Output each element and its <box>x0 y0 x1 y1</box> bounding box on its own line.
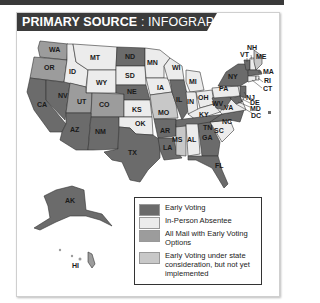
svg-text:KS: KS <box>132 106 142 113</box>
legend-label: Early Voting under state consideration, … <box>165 251 261 278</box>
state-AK[interactable] <box>34 186 112 230</box>
svg-text:NV: NV <box>58 92 68 99</box>
svg-text:WY: WY <box>96 79 108 86</box>
svg-text:HI: HI <box>72 262 79 269</box>
svg-text:LA: LA <box>163 144 172 151</box>
svg-text:GA: GA <box>202 134 213 141</box>
legend-swatch-all-mail <box>139 230 160 242</box>
legend-swatch-in-person-absentee <box>139 217 160 229</box>
svg-text:AL: AL <box>187 136 197 143</box>
legend: Early Voting In-Person Absentee All Mail… <box>134 197 262 285</box>
svg-text:SC: SC <box>214 127 224 134</box>
svg-text:WI: WI <box>172 64 181 71</box>
svg-text:MI: MI <box>189 78 197 85</box>
svg-text:ME: ME <box>256 53 267 60</box>
svg-text:MD: MD <box>250 105 261 112</box>
legend-item-early-voting: Early Voting <box>139 203 261 216</box>
svg-text:OH: OH <box>198 94 209 101</box>
svg-text:DC: DC <box>251 112 261 119</box>
svg-text:AK: AK <box>65 197 75 204</box>
legend-swatch-under-consideration <box>139 252 160 264</box>
svg-text:CT: CT <box>263 85 273 92</box>
svg-text:MA: MA <box>263 68 274 75</box>
state-RI[interactable] <box>256 76 259 80</box>
svg-text:OK: OK <box>135 120 146 127</box>
svg-text:FL: FL <box>215 162 224 169</box>
legend-label: Early Voting <box>165 203 261 212</box>
svg-text:MT: MT <box>90 54 101 61</box>
legend-label: In-Person Absentee <box>165 216 261 225</box>
svg-text:ND: ND <box>125 53 135 60</box>
svg-text:IN: IN <box>187 98 194 105</box>
svg-text:ID: ID <box>69 68 76 75</box>
svg-text:OR: OR <box>44 64 55 71</box>
svg-text:CO: CO <box>99 101 110 108</box>
svg-text:MO: MO <box>158 109 170 116</box>
svg-text:UT: UT <box>77 98 87 105</box>
svg-text:CA: CA <box>37 101 47 108</box>
svg-text:MN: MN <box>147 59 158 66</box>
svg-text:KY: KY <box>199 111 209 118</box>
svg-text:RI: RI <box>264 77 271 84</box>
svg-text:NH: NH <box>247 44 257 51</box>
svg-text:PA: PA <box>219 85 228 92</box>
dc-marker <box>268 111 271 114</box>
svg-text:VA: VA <box>224 104 233 111</box>
svg-text:NC: NC <box>222 118 232 125</box>
svg-text:NY: NY <box>228 73 238 80</box>
legend-item-in-person-absentee: In-Person Absentee <box>139 216 261 229</box>
svg-text:WV: WV <box>212 100 224 107</box>
svg-text:NM: NM <box>95 128 106 135</box>
svg-text:VT: VT <box>240 51 250 58</box>
state-CT[interactable] <box>248 76 256 82</box>
svg-text:IA: IA <box>157 84 164 91</box>
state-MA[interactable] <box>248 70 262 76</box>
legend-swatch-early-voting <box>139 204 160 216</box>
state-FL[interactable] <box>188 156 228 188</box>
svg-text:AR: AR <box>160 127 170 134</box>
legend-item-under-consideration: Early Voting under state consideration, … <box>139 251 261 278</box>
svg-text:IL: IL <box>176 96 183 103</box>
svg-text:TN: TN <box>203 124 212 131</box>
svg-text:SD: SD <box>125 72 135 79</box>
state-HI[interactable] <box>88 252 95 268</box>
svg-text:TX: TX <box>128 149 137 156</box>
svg-text:WA: WA <box>49 46 60 53</box>
svg-text:AZ: AZ <box>70 126 80 133</box>
legend-item-all-mail: All Mail with Early Voting Options <box>139 229 261 247</box>
svg-text:NE: NE <box>127 88 137 95</box>
legend-label: All Mail with Early Voting Options <box>165 229 261 247</box>
svg-text:MS: MS <box>172 136 183 143</box>
